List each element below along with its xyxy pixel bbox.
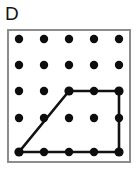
dot-grid-figure — [0, 0, 139, 172]
grid-dot — [15, 87, 23, 95]
grid-dot — [115, 61, 123, 69]
grid-dot — [40, 35, 48, 43]
grid-dot — [90, 87, 98, 95]
grid-dot — [115, 35, 123, 43]
grid-dot — [15, 114, 23, 122]
grid-dot-vertex — [114, 147, 123, 156]
grid-dot — [15, 35, 23, 43]
grid-dot — [40, 114, 48, 122]
grid-dot — [40, 87, 48, 95]
grid-dot — [65, 61, 73, 69]
grid-dot — [65, 148, 73, 156]
grid-dot — [40, 148, 48, 156]
grid-dot-vertex — [64, 86, 73, 95]
grid-dot — [90, 35, 98, 43]
grid-dot — [40, 61, 48, 69]
grid-dot-vertex — [14, 147, 23, 156]
grid-dot — [90, 61, 98, 69]
grid-dot — [15, 61, 23, 69]
grid-dot — [65, 114, 73, 122]
figure-root: D — [0, 0, 139, 172]
grid-dot — [65, 35, 73, 43]
grid-dot — [90, 148, 98, 156]
grid-dot — [90, 114, 98, 122]
grid-dot-vertex — [114, 86, 123, 95]
grid-dot — [115, 114, 123, 122]
